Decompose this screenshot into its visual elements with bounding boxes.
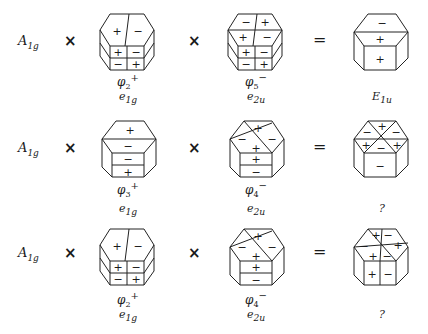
phi-label: φ4− xyxy=(236,290,276,309)
svg-text:+: + xyxy=(371,229,380,242)
svg-text:+: + xyxy=(259,58,268,71)
svg-text:+: + xyxy=(131,273,140,286)
svg-text:−: − xyxy=(241,58,250,71)
result-irrep-label: ? xyxy=(352,202,412,217)
svg-text:−: − xyxy=(391,126,400,139)
svg-text:−: − xyxy=(113,58,122,71)
irrep-label: e1g xyxy=(98,308,158,323)
svg-text:+: + xyxy=(112,240,121,253)
irrep-label: e2u xyxy=(226,308,286,323)
svg-text:+: + xyxy=(375,33,384,46)
prism-result-unknown: + − − + + − + − xyxy=(354,229,410,285)
svg-text:+: + xyxy=(260,16,269,29)
times-operator: × xyxy=(64,244,77,262)
irrep-label: e2u xyxy=(226,202,286,217)
times-operator: × xyxy=(188,139,201,157)
svg-text:−: − xyxy=(362,126,371,139)
svg-text:−: − xyxy=(123,140,132,153)
svg-text:−: − xyxy=(383,268,392,281)
svg-text:−: − xyxy=(382,250,391,263)
phi-label: φ2+ xyxy=(108,290,148,309)
svg-text:+: + xyxy=(393,239,402,252)
result-irrep-label: E1u xyxy=(352,90,412,105)
irrep-label: e2u xyxy=(226,90,286,105)
prism-phi2-plus: + − + − − + xyxy=(100,229,160,285)
svg-text:+: + xyxy=(367,268,376,281)
times-operator: × xyxy=(188,32,201,50)
svg-text:+: + xyxy=(251,153,260,166)
phi-label: φ3+ xyxy=(108,180,148,199)
lhs-a1g-label: A1g xyxy=(18,33,39,51)
irrep-label: e1g xyxy=(98,90,158,105)
prism-result-e1u: − + + xyxy=(354,14,410,70)
svg-text:−: − xyxy=(237,133,246,146)
phi-label: φ4− xyxy=(236,180,276,199)
prism-phi4-minus: + − − + + − xyxy=(230,229,286,285)
svg-text:−: − xyxy=(376,142,385,155)
svg-text:+: + xyxy=(361,139,370,152)
svg-text:+: + xyxy=(392,139,401,152)
irrep-label: e1g xyxy=(98,202,158,217)
svg-text:+: + xyxy=(377,120,386,133)
svg-text:−: − xyxy=(377,17,386,30)
svg-text:−: − xyxy=(359,240,368,253)
equals-sign: = xyxy=(313,30,326,49)
svg-text:−: − xyxy=(375,160,384,173)
phi-label: φ2+ xyxy=(108,72,148,91)
svg-text:−: − xyxy=(251,274,260,287)
prism-phi4-minus: + − − + + − xyxy=(230,121,286,177)
prism-result-unknown: + − − + + − − xyxy=(354,121,410,177)
svg-text:+: + xyxy=(253,230,262,243)
svg-text:−: − xyxy=(267,133,276,146)
svg-text:−: − xyxy=(383,229,392,242)
svg-text:−: − xyxy=(262,31,271,44)
svg-text:+: + xyxy=(131,58,140,71)
svg-text:−: − xyxy=(123,153,132,166)
svg-text:+: + xyxy=(238,31,247,44)
phi-label: φ5− xyxy=(236,72,276,91)
times-operator: × xyxy=(64,32,77,50)
svg-text:−: − xyxy=(133,240,142,253)
svg-text:−: − xyxy=(241,16,250,29)
times-operator: × xyxy=(64,139,77,157)
svg-text:+: + xyxy=(368,250,377,263)
result-irrep-label: ? xyxy=(352,308,412,323)
svg-text:+: + xyxy=(112,25,121,38)
svg-text:−: − xyxy=(251,166,260,179)
svg-text:+: + xyxy=(253,122,262,135)
lhs-a1g-label: A1g xyxy=(18,140,39,158)
prism-phi3-plus: + − − + xyxy=(102,121,158,177)
svg-text:−: − xyxy=(237,241,246,254)
svg-text:+: + xyxy=(125,124,134,137)
svg-text:−: − xyxy=(113,273,122,286)
prism-phi5-minus: − + + − + − − + xyxy=(228,14,288,70)
svg-text:+: + xyxy=(123,166,132,179)
times-operator: × xyxy=(188,244,201,262)
prism-phi2-plus: + − + − − + xyxy=(100,14,160,70)
equals-sign: = xyxy=(313,242,326,261)
svg-text:+: + xyxy=(251,261,260,274)
equals-sign: = xyxy=(313,137,326,156)
svg-text:−: − xyxy=(133,25,142,38)
svg-text:+: + xyxy=(375,53,384,66)
lhs-a1g-label: A1g xyxy=(18,245,39,263)
svg-text:−: − xyxy=(267,241,276,254)
